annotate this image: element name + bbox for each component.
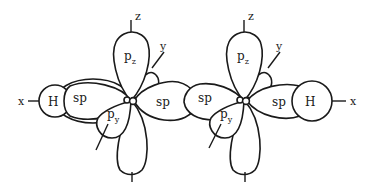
left-carbon-group: z y x: [18, 10, 196, 182]
left-z-axis-label: z: [135, 10, 141, 23]
left-y-axis-label: y: [159, 40, 167, 53]
right-sp-inner-label: sp: [198, 91, 212, 105]
orbital-diagram: z y x: [0, 0, 375, 193]
left-x-axis-label: x: [18, 95, 25, 108]
left-carbon-nucleus: [130, 98, 137, 105]
left-y-axis: [152, 52, 164, 68]
right-sp-outer-label: sp: [272, 95, 286, 109]
right-x-axis-label: x: [350, 95, 357, 108]
right-y-axis: [268, 52, 280, 68]
left-hydrogen-label: H: [48, 95, 58, 109]
right-carbon-nucleus: [243, 98, 250, 105]
left-sp-inner-label: sp: [156, 95, 170, 109]
right-y-axis-label: y: [275, 40, 283, 53]
left-sp-outer-label: sp: [73, 91, 87, 105]
right-carbon-group: z y x H sp sp pz py: [184, 10, 357, 182]
right-z-axis-label: z: [248, 10, 254, 23]
orbital-svg: z y x: [0, 0, 375, 193]
right-hydrogen-label: H: [305, 95, 315, 109]
